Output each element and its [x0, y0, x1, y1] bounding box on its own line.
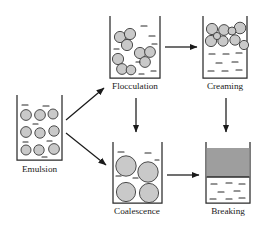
label-emulsion: Emulsion: [22, 164, 58, 174]
separated-layer-breaking: [207, 148, 250, 177]
label-coalescence: Coalescence: [114, 206, 160, 216]
droplet-group-emulsion: [21, 109, 60, 155]
label-creaming: Creaming: [207, 81, 244, 91]
label-breaking: Breaking: [211, 206, 245, 216]
label-flocculation: Flocculation: [112, 81, 158, 91]
emulsion-destabilization-diagram: Emulsion Flocculation: [0, 0, 260, 231]
